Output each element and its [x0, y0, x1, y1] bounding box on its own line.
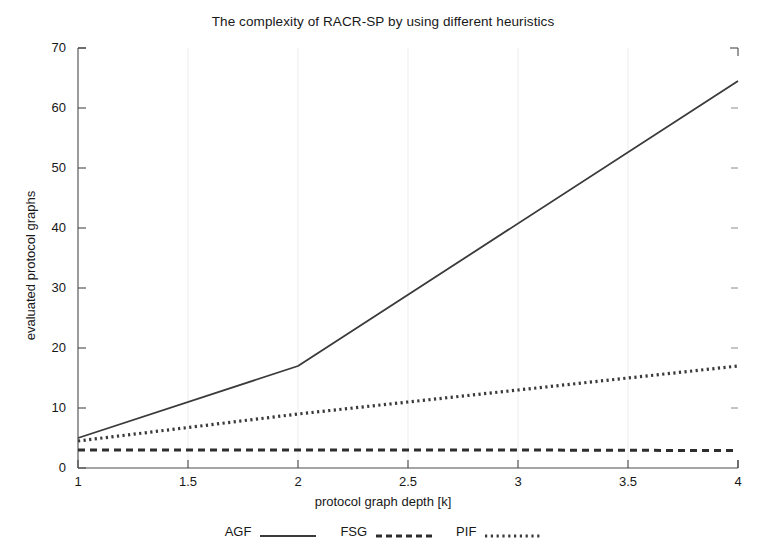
x-tick-label-3p5: 3.5	[608, 474, 648, 489]
dashed-line-swatch	[376, 527, 432, 537]
solid-line-swatch	[260, 527, 316, 537]
y-tick-label-60: 60	[26, 100, 66, 115]
x-axis-label: protocol graph depth [k]	[0, 494, 766, 509]
plot-area	[0, 0, 766, 560]
y-tick-label-70: 70	[26, 40, 66, 55]
x-tick-label-2: 2	[278, 474, 318, 489]
x-tick-label-1: 1	[58, 474, 98, 489]
legend-entry-fsg: FSG	[340, 524, 432, 539]
x-tick-label-1p5: 1.5	[168, 474, 208, 489]
y-tick-label-0: 0	[26, 460, 66, 475]
x-tick-marks	[78, 460, 738, 468]
series-line-fsg	[78, 450, 738, 451]
chart-figure: The complexity of RACR-SP by using diffe…	[0, 0, 766, 560]
legend-label-pif: PIF	[456, 524, 476, 539]
grid-lines	[188, 48, 628, 468]
x-tick-label-3: 3	[498, 474, 538, 489]
x-tick-label-4: 4	[718, 474, 758, 489]
y-tick-marks	[78, 48, 86, 468]
chart-legend: AGF FSG PIF	[0, 524, 766, 539]
legend-entry-pif: PIF	[456, 524, 541, 539]
x-tick-label-2p5: 2.5	[388, 474, 428, 489]
y-axis-label: evaluated protocol graphs	[23, 166, 38, 366]
legend-entry-agf: AGF	[225, 524, 317, 539]
dotted-line-swatch	[485, 527, 541, 537]
y-tick-label-10: 10	[26, 400, 66, 415]
legend-label-agf: AGF	[225, 524, 252, 539]
legend-label-fsg: FSG	[340, 524, 367, 539]
y-tick-marks-right	[731, 108, 738, 408]
